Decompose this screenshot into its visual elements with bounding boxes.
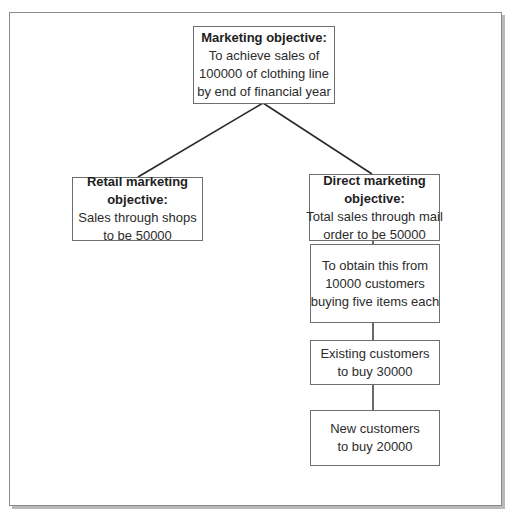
retail-objective-title-line-1: Retail marketing [87,173,188,191]
marketing-objective-line-1: To achieve sales of [209,47,320,65]
direct-objective-title-line-2: objective: [344,190,405,208]
connector-root-to-direct [263,103,372,174]
direct-objective-line-1: Total sales through mail [306,208,443,226]
direct-marketing-objective-box: Direct marketing objective: Total sales … [309,174,440,241]
step2-line-2: to buy 30000 [337,363,412,381]
marketing-objective-line-2: 100000 of clothing line [199,65,329,83]
step1-line-3: buying five items each [311,293,440,311]
direct-step-obtain-customers-box: To obtain this from 10000 customers buyi… [310,244,440,323]
retail-objective-line-1: Sales through shops [78,209,197,227]
marketing-objective-line-3: by end of financial year [197,83,331,101]
step2-line-1: Existing customers [320,345,429,363]
step3-line-2: to buy 20000 [337,438,412,456]
direct-step-existing-customers-box: Existing customers to buy 30000 [310,340,440,385]
step1-line-1: To obtain this from [322,257,428,275]
direct-objective-line-2: order to be 50000 [323,226,426,244]
connector-root-to-retail [138,103,263,177]
marketing-objective-title: Marketing objective: [201,29,327,47]
direct-objective-title-line-1: Direct marketing [323,172,426,190]
marketing-objective-box: Marketing objective: To achieve sales of… [193,26,335,104]
direct-step-new-customers-box: New customers to buy 20000 [310,410,440,466]
retail-objective-line-2: to be 50000 [103,227,172,245]
retail-objective-title-line-2: objective: [107,191,168,209]
step1-line-2: 10000 customers [325,275,425,293]
retail-marketing-objective-box: Retail marketing objective: Sales throug… [72,177,203,241]
step3-line-1: New customers [330,420,420,438]
